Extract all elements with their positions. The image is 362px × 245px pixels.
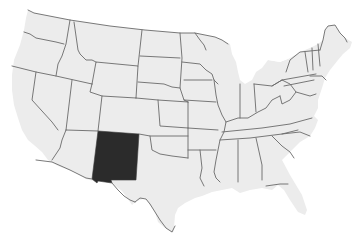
us-map xyxy=(0,0,362,245)
state-new-mexico[interactable] xyxy=(92,131,139,183)
